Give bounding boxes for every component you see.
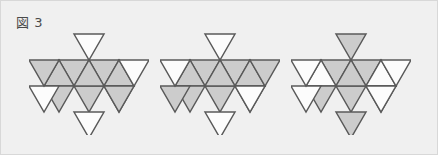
hexagram-3-point-top: [336, 34, 366, 60]
hexagram-1-triangles: [29, 34, 149, 135]
hexagram-3-hex-center-lower: [336, 86, 366, 112]
hexagram-figure-1: [29, 23, 149, 135]
hexagram-2-point-top: [205, 34, 235, 60]
hexagram-3-triangles: [291, 34, 411, 135]
hexagram-1-point-lower-right: [104, 86, 134, 112]
hexagram-2-triangles: [160, 34, 280, 135]
hexagram-2-point-bottom: [205, 112, 235, 135]
hexagram-2-hex-center-lower: [205, 86, 235, 112]
hexagram-figures-row: [1, 23, 438, 135]
hexagram-2-point-lower-right: [235, 86, 265, 112]
hexagram-1-hex-center-lower: [74, 86, 104, 112]
hexagram-3-point-lower-right: [366, 86, 396, 112]
hexagram-3-point-bottom: [336, 112, 366, 135]
figure-panel: 図 3: [0, 0, 438, 155]
hexagram-1-point-bottom: [74, 112, 104, 135]
hexagram-figure-2: [160, 23, 280, 135]
hexagram-1-point-top: [74, 34, 104, 60]
hexagram-figure-3: [291, 23, 411, 135]
